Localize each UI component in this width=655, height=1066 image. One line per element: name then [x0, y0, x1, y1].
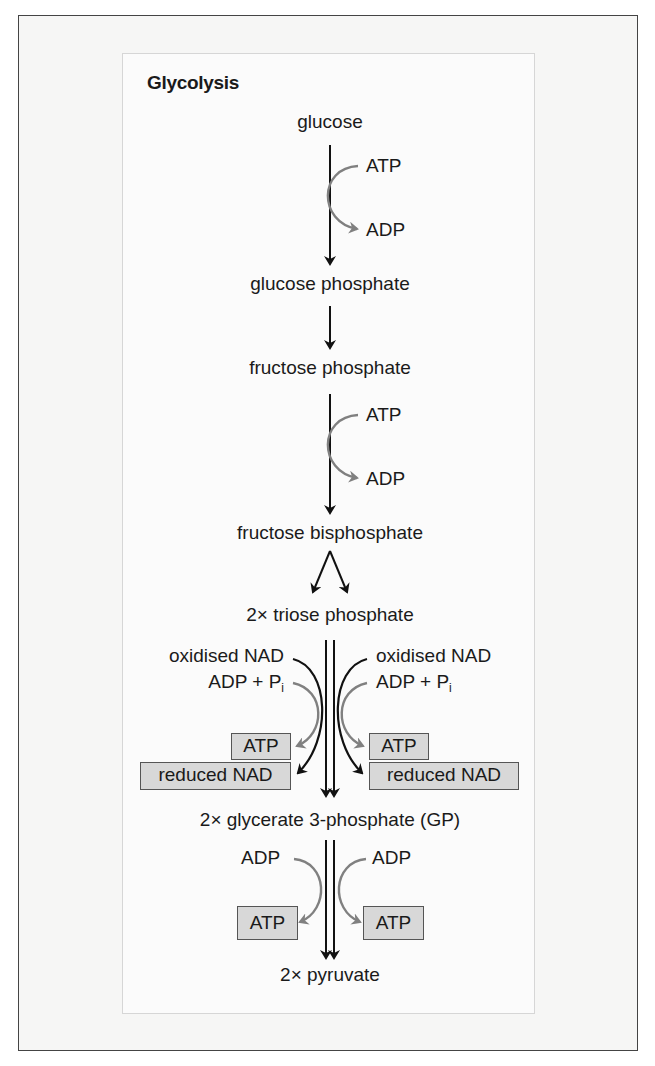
label-triose-phosphate: 2× triose phosphate [246, 604, 413, 626]
arrow-glycerate-to-pyruvate [294, 840, 366, 958]
label-glucose-phosphate: glucose phosphate [250, 273, 410, 295]
box-left-atp: ATP [231, 733, 291, 760]
label-right-adp-pi: ADP + Pi [376, 671, 452, 699]
arrow-split-to-triose [313, 551, 347, 592]
label-left-adp: ADP [241, 847, 280, 869]
label-step1-adp: ADP [366, 219, 405, 241]
label-right-oxidised-nad: oxidised NAD [376, 645, 491, 667]
label-left-oxidised-nad: oxidised NAD [169, 645, 284, 667]
arrow-glucose-to-glucose-phosphate [328, 145, 358, 264]
label-right-adp: ADP [372, 847, 411, 869]
box-right-atp-step6: ATP [363, 906, 424, 940]
arrow-triose-to-glycerate [293, 640, 367, 796]
label-glucose: glucose [297, 111, 363, 133]
box-left-atp-step6: ATP [237, 906, 298, 940]
label-step3-adp: ADP [366, 468, 405, 490]
label-fructose-phosphate: fructose phosphate [249, 357, 411, 379]
label-fructose-bisphosphate: fructose bisphosphate [237, 522, 423, 544]
label-step3-atp: ATP [366, 404, 402, 426]
box-right-reduced-nad: reduced NAD [369, 762, 519, 790]
label-step1-atp: ATP [366, 155, 402, 177]
label-pyruvate: 2× pyruvate [280, 964, 380, 986]
arrow-fructose-phosphate-to-bisphosphate [328, 394, 358, 513]
label-glycerate-3-phosphate: 2× glycerate 3-phosphate (GP) [200, 809, 460, 831]
box-right-atp: ATP [369, 733, 429, 760]
box-left-reduced-nad: reduced NAD [140, 762, 291, 790]
label-left-adp-pi: ADP + Pi [208, 671, 284, 699]
diagram-title: Glycolysis [147, 72, 239, 94]
